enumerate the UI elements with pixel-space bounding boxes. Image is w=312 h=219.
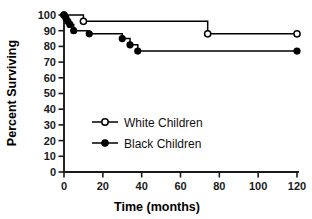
y-tick-label: 50 <box>44 87 56 99</box>
data-point-marker-open <box>294 31 300 37</box>
x-tick-label: 60 <box>174 180 186 192</box>
y-tick-label: 100 <box>38 9 56 21</box>
x-tick-label: 0 <box>61 180 67 192</box>
data-point-marker-filled <box>86 31 92 37</box>
legend-marker-open-circle-icon <box>102 119 108 125</box>
y-tick-label: 10 <box>44 150 56 162</box>
y-tick-label: 30 <box>44 119 56 131</box>
y-tick-label: 90 <box>44 25 56 37</box>
legend-label-black: Black Children <box>124 137 201 151</box>
x-tick-label: 40 <box>136 180 148 192</box>
x-tick-label: 80 <box>213 180 225 192</box>
x-tick-label: 100 <box>249 180 267 192</box>
data-point-marker-filled <box>135 48 141 54</box>
x-axis-title: Time (months) <box>114 200 200 214</box>
y-tick-label: 60 <box>44 72 56 84</box>
y-tick-label: 70 <box>44 56 56 68</box>
y-axis-title: Percent Surviving <box>5 40 19 146</box>
x-tick-label: 20 <box>97 180 109 192</box>
y-tick-label: 20 <box>44 135 56 147</box>
data-point-marker-open <box>80 18 86 24</box>
data-point-marker-filled <box>294 48 300 54</box>
data-point-marker-filled <box>119 36 125 42</box>
legend-label-white: White Children <box>124 116 203 130</box>
data-point-marker-open <box>205 31 211 37</box>
y-tick-label: 40 <box>44 103 56 115</box>
survival-chart: 0102030405060708090100 020406080100120 T… <box>0 0 312 219</box>
data-point-marker-filled <box>71 28 77 34</box>
y-tick-label: 80 <box>44 40 56 52</box>
y-tick-label: 0 <box>50 166 56 178</box>
data-point-marker-filled <box>67 21 73 27</box>
legend-marker-filled-circle-icon <box>102 140 108 146</box>
chart-canvas: 0102030405060708090100 020406080100120 T… <box>0 0 312 219</box>
x-tick-label: 120 <box>288 180 306 192</box>
data-point-marker-filled <box>127 42 133 48</box>
